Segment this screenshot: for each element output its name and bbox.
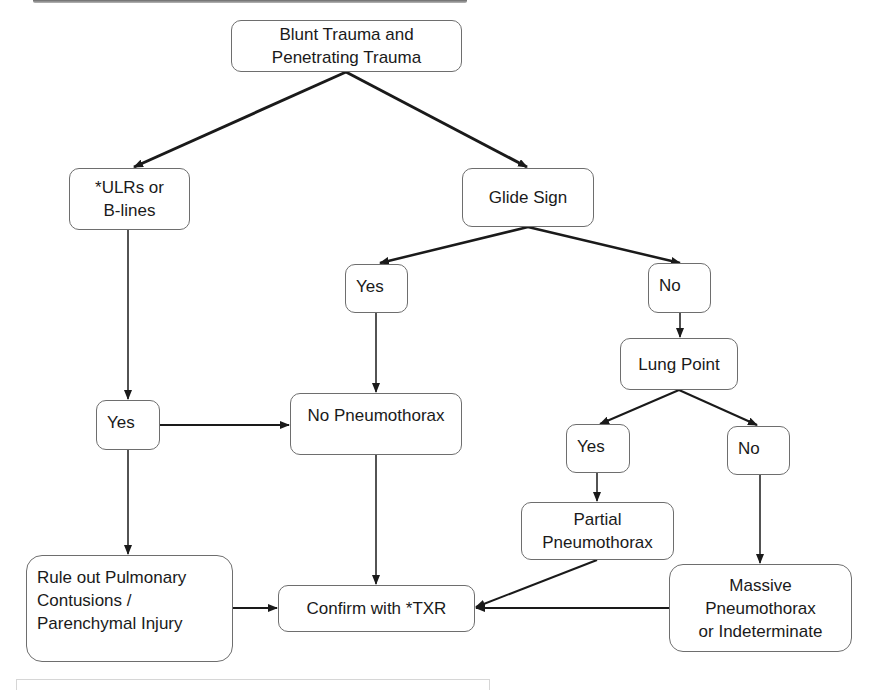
node-glide-sign: Glide Sign — [462, 168, 594, 227]
edge-glide-no — [528, 227, 680, 263]
node-lung-point: Lung Point — [620, 338, 738, 390]
node-lungpoint-no: No — [727, 426, 790, 475]
node-label: No Pneumothorax — [307, 404, 444, 427]
node-glide-yes: Yes — [345, 264, 408, 313]
node-rule-out-contusions: Rule out Pulmonary Contusions / Parenchy… — [26, 555, 233, 662]
node-label: Massive Pneumothorax or Indeterminate — [699, 574, 823, 643]
node-label: Lung Point — [638, 353, 719, 376]
node-label: Confirm with *TXR — [307, 597, 447, 620]
node-confirm-txr: Confirm with *TXR — [278, 585, 475, 632]
node-massive-pneumothorax: Massive Pneumothorax or Indeterminate — [669, 564, 852, 652]
node-label: Rule out Pulmonary Contusions / Parenchy… — [37, 566, 186, 635]
edge-glide-yes — [380, 227, 528, 263]
edge-lp-no — [679, 390, 757, 425]
node-trauma-type: Blunt Trauma and Penetrating Trauma — [231, 20, 462, 72]
edge-root-ulrs — [134, 72, 346, 167]
node-label: *ULRs or B-lines — [95, 176, 164, 222]
node-label: Yes — [107, 411, 135, 434]
node-ulrs-blines: *ULRs or B-lines — [69, 168, 190, 230]
node-label: Yes — [577, 435, 605, 458]
node-label: Glide Sign — [489, 186, 567, 209]
node-label: Blunt Trauma and Penetrating Trauma — [272, 23, 421, 69]
node-no-pneumothorax: No Pneumothorax — [290, 393, 462, 455]
edge-lp-yes — [600, 390, 679, 424]
node-label: Yes — [356, 275, 384, 298]
node-label: No — [659, 274, 681, 297]
node-lungpoint-yes: Yes — [566, 424, 630, 473]
node-glide-no: No — [648, 263, 711, 313]
node-ulrs-yes: Yes — [96, 400, 160, 450]
node-partial-pneumothorax: Partial Pneumothorax — [521, 502, 674, 560]
edge-root-glide — [346, 72, 527, 167]
node-label: Partial Pneumothorax — [542, 508, 653, 554]
node-label: No — [738, 437, 760, 460]
edge-partial-confirm — [476, 560, 597, 607]
